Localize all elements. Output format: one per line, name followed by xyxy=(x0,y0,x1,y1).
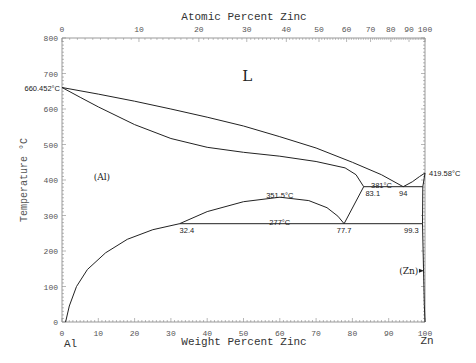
labels: 660.452°C419.58°C381°C83.194351.5°C277°C… xyxy=(24,67,460,276)
top-axis-label: Atomic Percent Zinc xyxy=(181,11,306,23)
x2-tick-label: 0 xyxy=(60,25,65,34)
x-tick-label: 70 xyxy=(311,329,321,338)
y-tick-label: 100 xyxy=(44,283,59,292)
y-tick-label: 400 xyxy=(44,176,59,185)
left-element-label: Al xyxy=(64,338,77,350)
x-axis-label: Weight Percent Zinc xyxy=(181,336,306,348)
x-tick-label: 10 xyxy=(93,329,103,338)
phase-label: (Al) xyxy=(94,172,110,182)
x2-tick-label: 70 xyxy=(366,25,376,34)
y-tick-label: 800 xyxy=(44,34,59,43)
annotation-label: 660.452°C xyxy=(24,84,60,93)
x-tick-label: 90 xyxy=(384,329,394,338)
x-tick-label: 80 xyxy=(348,329,358,338)
y-tick-label: 300 xyxy=(44,212,59,221)
annotation-label: 419.58°C xyxy=(429,169,461,178)
x2-tick-label: 10 xyxy=(134,25,144,34)
x2-tick-label: 90 xyxy=(404,25,414,34)
annotation-label: 99.3 xyxy=(404,226,419,235)
annotation-label: 381°C xyxy=(371,181,393,190)
x2-tick-label: 100 xyxy=(418,25,433,34)
annotation-label: 351.5°C xyxy=(266,191,294,200)
right-element-label: Zn xyxy=(420,335,433,347)
phase-label: (Zn) xyxy=(399,266,418,276)
x2-tick-label: 30 xyxy=(242,25,252,34)
y-tick-label: 0 xyxy=(53,318,58,327)
x2-tick-label: 40 xyxy=(282,25,292,34)
annotation-label: 94 xyxy=(399,189,407,198)
phase-label: L xyxy=(242,67,252,85)
y-axis-label: Temperature °C xyxy=(19,138,30,222)
x2-tick-label: 80 xyxy=(386,25,396,34)
curve-monotectoid-boundary xyxy=(344,187,364,224)
x-tick-label: 0 xyxy=(60,329,65,338)
x2-tick-label: 20 xyxy=(194,25,204,34)
phase-boundaries xyxy=(62,88,425,323)
y-tick-label: 200 xyxy=(44,247,59,256)
annotation-label: 83.1 xyxy=(365,189,380,198)
x-tick-label: 30 xyxy=(166,329,176,338)
y-tick-label: 500 xyxy=(44,141,59,150)
x2-tick-label: 50 xyxy=(314,25,324,34)
annotation-label: 32.4 xyxy=(180,226,195,235)
annotation-label: 77.7 xyxy=(337,226,352,235)
curve-miscibility-gap xyxy=(180,197,345,224)
y-tick-label: 600 xyxy=(44,105,59,114)
curve-liquidus xyxy=(62,88,425,187)
phase-diagram: 0102030405060708090100010020030040050060… xyxy=(0,0,476,363)
x2-tick-label: 60 xyxy=(342,25,352,34)
annotation-label: 277°C xyxy=(269,218,291,227)
x-tick-label: 20 xyxy=(130,329,140,338)
curve-solvus-al xyxy=(66,224,180,322)
y-tick-label: 700 xyxy=(44,70,59,79)
